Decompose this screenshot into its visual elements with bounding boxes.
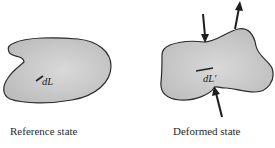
deformed-body: dL' xyxy=(161,29,273,100)
deformed-state-caption: Deformed state xyxy=(173,125,241,137)
reference-body: dL xyxy=(4,38,111,103)
compressive-arrow-bottom xyxy=(216,93,222,117)
dl-label: dL xyxy=(42,76,53,87)
arrowhead-up-icon xyxy=(235,1,243,11)
reference-state-caption: Reference state xyxy=(10,125,77,137)
compressive-arrow-top xyxy=(203,14,205,36)
tensile-arrow-top xyxy=(235,8,239,29)
dl-prime-label: dL' xyxy=(203,73,217,84)
